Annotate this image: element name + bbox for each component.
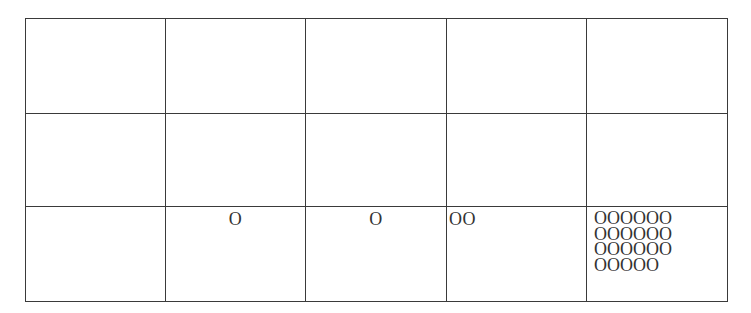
grid-cell: [26, 19, 166, 114]
tally-marks: O: [166, 207, 305, 227]
grid-cell: [306, 19, 447, 114]
grid-cell: [306, 114, 447, 207]
tally-marks: O: [306, 207, 446, 227]
grid-cell-tally: OO: [447, 207, 587, 302]
tally-marks: OO: [447, 207, 586, 227]
grid-cell: [447, 19, 587, 114]
grid-row-2: [26, 114, 728, 207]
grid-cell: [26, 114, 166, 207]
grid-cell-tally: OOOOOO OOOOOO OOOOOO OOOOO: [587, 207, 728, 302]
grid-row-1: [26, 19, 728, 114]
grid-cell: [587, 114, 728, 207]
grid-cell: [166, 19, 306, 114]
tally-grid: O O OO OOOOOO OOOOOO OOOOOO OOOOO: [25, 18, 728, 302]
grid-row-3: O O OO OOOOOO OOOOOO OOOOOO OOOOO: [26, 207, 728, 302]
grid-cell-tally: O: [166, 207, 306, 302]
tally-marks: OOOOOO OOOOOO OOOOOO OOOOO: [587, 207, 727, 273]
grid-cell: [587, 19, 728, 114]
grid-cell: [26, 207, 166, 302]
grid-cell: [447, 114, 587, 207]
grid-cell: [166, 114, 306, 207]
grid-cell-tally: O: [306, 207, 447, 302]
